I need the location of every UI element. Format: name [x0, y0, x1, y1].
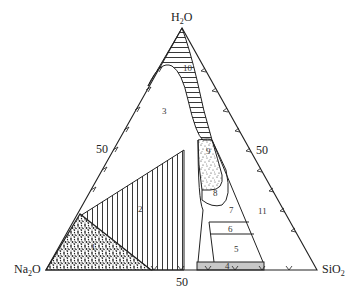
left-axis-50-label: 50 — [96, 142, 108, 157]
region-label-9: 9 — [206, 146, 211, 156]
bottom-axis-50-label: 50 — [176, 275, 188, 290]
vertex-label-h2o: H2O — [171, 10, 192, 26]
vertex-label-sio2: SiO2 — [322, 262, 345, 278]
ternary-diagram — [0, 0, 357, 295]
right-axis-50-label: 50 — [256, 143, 268, 158]
region-label-2: 2 — [138, 204, 143, 214]
region-label-5: 5 — [234, 244, 239, 254]
region-label-6: 6 — [228, 224, 233, 234]
region-10 — [148, 28, 212, 140]
region-label-10: 10 — [183, 63, 192, 73]
region-label-8: 8 — [213, 188, 218, 198]
region-label-7: 7 — [229, 205, 234, 215]
region-label-4: 4 — [225, 261, 230, 271]
vertex-label-na2o: Na2O — [14, 262, 41, 278]
region-label-3: 3 — [162, 106, 167, 116]
region-label-1: 1 — [91, 242, 96, 252]
region-label-11: 11 — [258, 206, 267, 216]
